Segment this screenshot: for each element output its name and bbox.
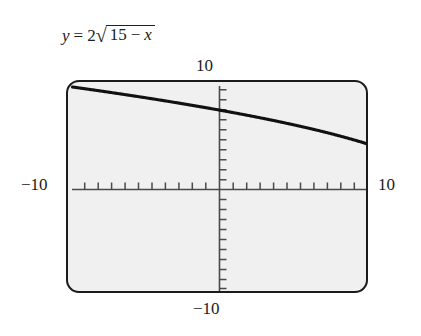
radicand-operator: − bbox=[131, 25, 141, 44]
equation-equals-sign: = bbox=[74, 26, 84, 45]
y-axis-min-label: −10 bbox=[193, 300, 220, 317]
equation-lhs: y bbox=[62, 26, 70, 45]
graph-screen bbox=[66, 80, 368, 293]
x-axis-max-label: 10 bbox=[378, 176, 395, 193]
x-axis-min-label: −10 bbox=[21, 176, 48, 193]
equation-coefficient: 2 bbox=[87, 26, 96, 45]
radicand-first-term: 15 bbox=[110, 25, 127, 44]
radical-expression: √15−x bbox=[96, 24, 155, 44]
equation-caption: y=2√15−x bbox=[62, 24, 155, 44]
radicand: 15−x bbox=[106, 25, 155, 43]
graph-plot bbox=[68, 82, 368, 293]
radicand-variable: x bbox=[144, 25, 152, 44]
y-axis-max-label: 10 bbox=[196, 57, 213, 74]
